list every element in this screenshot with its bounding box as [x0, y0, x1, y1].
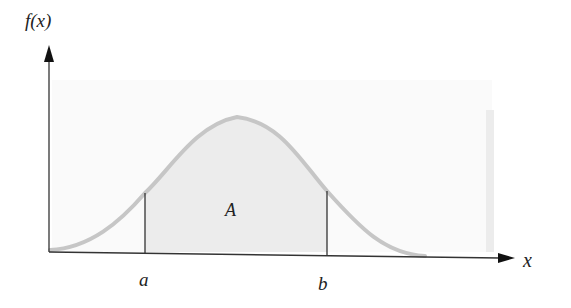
y-axis-arrow-icon — [44, 45, 54, 62]
area-label: A — [224, 200, 237, 220]
density-diagram: f(x) x a b A — [0, 0, 571, 308]
panel-edge-shadow — [486, 110, 494, 252]
x-axis — [49, 252, 500, 258]
lower-bound-label: a — [139, 269, 149, 290]
x-axis-arrow-icon — [498, 253, 515, 263]
y-axis-label: f(x) — [25, 10, 51, 32]
x-axis-label: x — [522, 249, 532, 271]
upper-bound-label: b — [318, 273, 328, 294]
